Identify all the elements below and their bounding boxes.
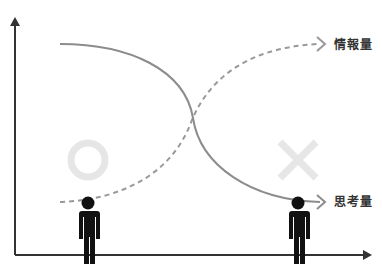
information-label: 情報量 bbox=[334, 38, 373, 52]
diagram-canvas bbox=[0, 0, 382, 274]
thinking-label: 思考量 bbox=[334, 195, 373, 209]
information-arrowhead-icon bbox=[317, 37, 325, 51]
axes bbox=[10, 17, 372, 260]
person-icon-right bbox=[289, 197, 310, 265]
circle-mark-icon bbox=[71, 143, 105, 177]
person-icon-left bbox=[79, 197, 100, 265]
y-axis-arrow-icon bbox=[10, 17, 20, 26]
x-axis-arrow-icon bbox=[363, 250, 372, 260]
cross-mark-icon bbox=[280, 142, 316, 178]
information-curve bbox=[60, 44, 318, 202]
